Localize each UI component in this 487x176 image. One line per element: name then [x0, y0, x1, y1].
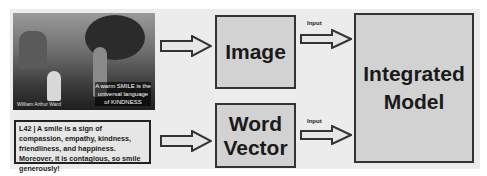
model-label-line1: Integrated [363, 60, 465, 88]
photo-figure-child [47, 71, 61, 101]
arrow-right-icon [160, 35, 212, 57]
photo-signature: William Arthur Ward [17, 101, 61, 107]
image-node-label: Image [225, 40, 286, 64]
word-vector-label-line1: Word [223, 112, 287, 136]
word-vector-node: Word Vector [215, 103, 296, 168]
text-input-box: L42 | A smile is a sign of compassion, e… [14, 120, 151, 164]
image-input-photo: A warm SMILE is the universal language o… [13, 13, 155, 110]
edge-label-word-input: Input [307, 118, 322, 124]
word-vector-label-line2: Vector [223, 136, 287, 160]
arrow-right-icon [300, 125, 352, 145]
edge-label-image-input: Input [307, 20, 322, 26]
integrated-model-node: Integrated Model [354, 13, 474, 163]
photo-ruin-shape [19, 31, 47, 69]
arrow-right-icon [300, 29, 352, 49]
model-label-line2: Model [363, 88, 465, 116]
image-node: Image [215, 15, 296, 89]
arrow-right-icon [160, 130, 212, 152]
photo-caption: A warm SMILE is the universal language o… [95, 82, 151, 106]
